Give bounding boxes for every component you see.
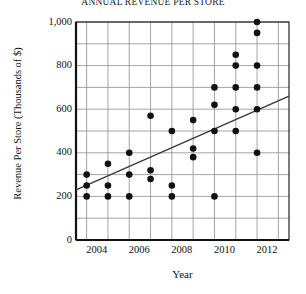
data-point <box>232 106 239 113</box>
data-point <box>254 30 261 37</box>
data-point <box>169 193 176 200</box>
chart-container: ANNUAL REVENUE PER STORE Revenue Per Sto… <box>0 0 306 294</box>
data-point <box>105 160 112 167</box>
data-point <box>190 117 197 124</box>
data-point <box>232 51 239 58</box>
data-point <box>254 84 261 91</box>
data-point <box>232 128 239 135</box>
scatter-plot-area <box>0 0 306 294</box>
data-point <box>254 62 261 69</box>
data-point <box>232 62 239 69</box>
data-point <box>83 193 90 200</box>
data-point <box>232 84 239 91</box>
data-point <box>169 128 176 135</box>
data-point <box>83 182 90 189</box>
data-point <box>126 193 133 200</box>
data-point <box>169 182 176 189</box>
data-point <box>105 193 112 200</box>
data-point <box>126 171 133 178</box>
data-point <box>126 150 133 157</box>
data-point <box>254 106 261 113</box>
data-point <box>190 145 197 152</box>
data-point <box>254 150 261 157</box>
data-point <box>254 19 261 26</box>
data-point <box>147 112 154 119</box>
data-point <box>147 167 154 174</box>
data-point <box>211 193 218 200</box>
data-point <box>190 154 197 161</box>
data-point <box>211 128 218 135</box>
data-point <box>83 171 90 178</box>
data-point <box>211 102 218 109</box>
data-point <box>211 84 218 91</box>
data-point <box>105 182 112 189</box>
data-point <box>147 176 154 183</box>
